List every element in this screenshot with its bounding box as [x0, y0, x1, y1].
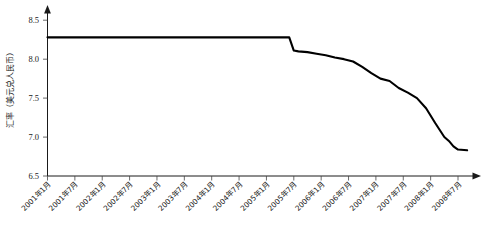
x-axis-arrow-icon [473, 173, 482, 180]
y-tick-group [43, 20, 48, 176]
y-axis-arrow-icon [44, 5, 51, 14]
y-axis [44, 5, 51, 176]
x-tick-group [48, 176, 459, 181]
x-axis [48, 173, 482, 180]
y-axis-title: 汇率（美元兑人民币） [5, 48, 15, 128]
y-tick-labels: 8.5 8.0 7.5 7.0 6.5 [28, 15, 39, 181]
y-tick-label: 7.0 [28, 132, 39, 142]
chart-svg: 8.5 8.0 7.5 7.0 6.5 汇率（美元兑人民币） 2001年1月20… [0, 0, 492, 243]
series-group [48, 37, 468, 150]
y-tick-label: 7.5 [28, 93, 39, 103]
y-tick-label: 6.5 [28, 171, 39, 181]
x-tick-label: 2008年7月 [430, 180, 463, 213]
y-tick-label: 8.5 [28, 15, 39, 25]
series-line-0 [48, 37, 468, 150]
x-tick-labels: 2001年1月2001年7月2002年1月2002年7月2003年1月2003年… [20, 180, 463, 213]
exchange-rate-chart: 8.5 8.0 7.5 7.0 6.5 汇率（美元兑人民币） 2001年1月20… [0, 0, 492, 243]
y-tick-label: 8.0 [28, 54, 39, 64]
